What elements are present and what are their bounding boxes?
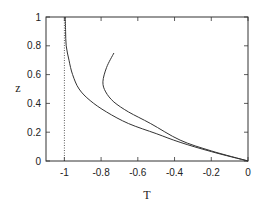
x-tick-label: -0.2 (203, 167, 221, 178)
y-tick-label: 1 (35, 12, 41, 23)
y-axis-label: z (15, 81, 20, 95)
y-tick-label: 0 (35, 156, 41, 167)
plot-border (46, 17, 248, 161)
plot-frame (46, 17, 248, 161)
y-tick-label: 0.6 (27, 69, 41, 80)
y-tick-label: 0.8 (27, 40, 41, 51)
x-tick-label: -0.4 (166, 167, 184, 178)
chart: -1-0.8-0.6-0.4-0.2000.20.40.60.81 T z (0, 0, 265, 205)
series-curve-2 (103, 53, 248, 161)
series-group (64, 17, 248, 161)
x-axis-label: T (143, 188, 151, 202)
x-tick-label: -0.6 (129, 167, 147, 178)
y-tick-label: 0.2 (27, 127, 41, 138)
x-tick-label: -0.8 (92, 167, 110, 178)
series-curve-1 (65, 17, 248, 161)
y-tick-label: 0.4 (27, 98, 41, 109)
x-tick-label: 0 (245, 167, 251, 178)
x-tick-label: -1 (60, 167, 69, 178)
